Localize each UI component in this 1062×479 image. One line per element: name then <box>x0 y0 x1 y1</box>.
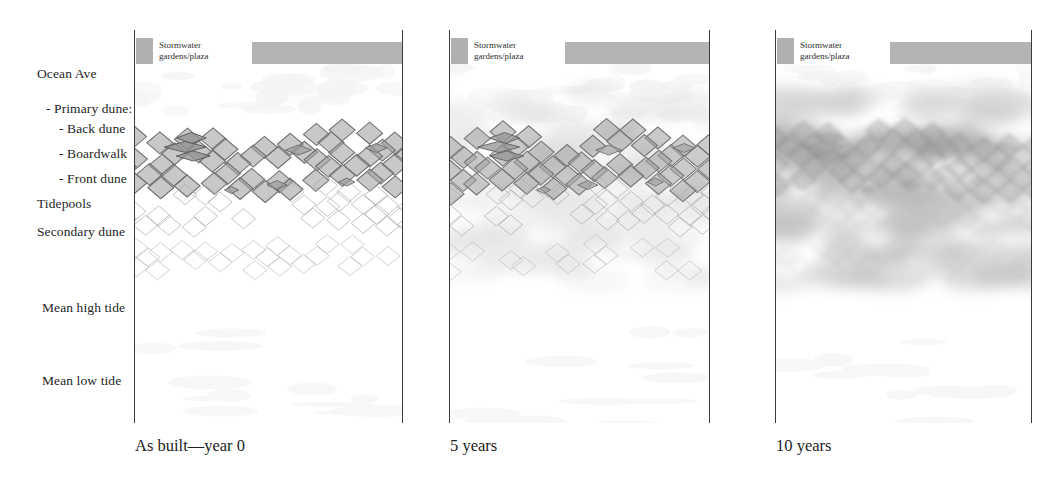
row-label-secondary-dune: Secondary dune <box>37 225 125 239</box>
legend-plaza-bar <box>565 42 709 64</box>
tidal-zone-wash <box>450 326 709 423</box>
row-label-tidepools: Tidepools <box>37 197 91 211</box>
row-label-mean-low-tide: Mean low tide <box>42 374 121 388</box>
panel-year-0 <box>135 30 402 423</box>
row-label-primary-dune: - Primary dune: <box>46 102 132 116</box>
panel-caption-panel-year-0: As built—year 0 <box>135 438 245 455</box>
panel-canvas <box>776 30 1031 423</box>
legend-swatch <box>451 38 468 64</box>
legend-plaza-bar <box>252 42 402 64</box>
legend-label-line2: gardens/plaza <box>159 51 208 62</box>
legend-label-line1: Stormwater <box>800 40 849 51</box>
row-label-front-dune: - Front dune <box>59 172 127 186</box>
dune-hatch-texture <box>135 119 402 280</box>
legend-label-box: Stormwatergardens/plaza <box>155 38 212 65</box>
panel-caption-panel-5-years: 5 years <box>450 438 497 455</box>
legend-label-line2: gardens/plaza <box>800 51 849 62</box>
secondary-dune-hatch <box>135 235 402 280</box>
panel-frame-right <box>709 30 710 423</box>
tidal-zone-wash <box>776 339 1017 423</box>
tidal-zone-wash <box>135 328 402 417</box>
legend-label-box: Stormwatergardens/plaza <box>796 38 853 65</box>
dune-restoration-figure: Ocean Ave- Primary dune:- Back dune- Boa… <box>0 0 1062 479</box>
legend-plaza-bar <box>890 42 1031 64</box>
ocean-ave-wash <box>135 63 402 117</box>
legend-swatch <box>777 38 794 64</box>
row-label-boardwalk: - Boardwalk <box>59 147 127 161</box>
row-label-back-dune: - Back dune <box>59 122 125 136</box>
legend-label-box: Stormwatergardens/plaza <box>470 38 527 65</box>
ocean-ave-wash <box>450 58 709 125</box>
panel-canvas <box>450 30 709 423</box>
panel-caption-panel-10-years: 10 years <box>776 438 831 455</box>
row-label-ocean-ave: Ocean Ave <box>37 67 97 81</box>
panel-frame-right <box>1031 30 1032 423</box>
row-label-mean-high-tide: Mean high tide <box>42 301 125 315</box>
panel-frame-right <box>402 30 403 423</box>
panel-canvas <box>135 30 402 423</box>
legend-label-line1: Stormwater <box>474 40 523 51</box>
legend-label-line1: Stormwater <box>159 40 208 51</box>
primary-dune-mass <box>135 119 402 202</box>
panel-5-years <box>450 30 709 423</box>
legend-label-line2: gardens/plaza <box>474 51 523 62</box>
panel-10-years <box>776 30 1031 423</box>
legend-swatch <box>136 38 153 64</box>
